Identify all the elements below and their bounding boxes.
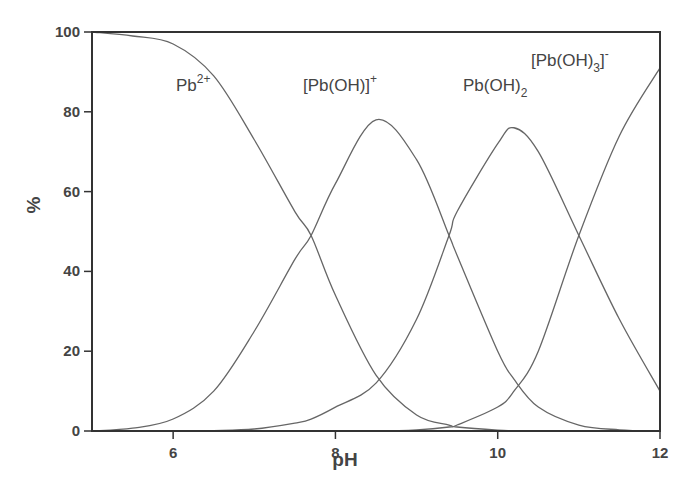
x-tick-label: 10 (489, 444, 506, 461)
y-axis: 020406080100 (55, 23, 92, 439)
curve-1 (92, 119, 660, 431)
label-pboh-plus: [Pb(OH)]+ (303, 72, 377, 95)
y-axis-title: % (23, 196, 44, 213)
curve-2 (92, 127, 660, 431)
x-tick-label: 12 (652, 444, 669, 461)
y-tick-label: 80 (63, 103, 80, 120)
label-pboh2: Pb(OH)2 (463, 76, 528, 100)
x-axis-title: pH (332, 449, 357, 470)
curve-3 (92, 68, 660, 431)
y-tick-label: 100 (55, 23, 80, 40)
y-tick-label: 0 (72, 422, 80, 439)
y-tick-label: 20 (63, 342, 80, 359)
speciation-chart: 020406080100 681012 % pH Pb2+ [Pb(OH)]+ … (0, 0, 686, 483)
x-tick-label: 6 (169, 444, 177, 461)
label-pb2plus: Pb2+ (176, 72, 210, 95)
x-axis: 681012 (169, 431, 668, 461)
label-pboh3-minus: [Pb(OH)3]- (531, 47, 609, 75)
y-tick-label: 60 (63, 183, 80, 200)
y-tick-label: 40 (63, 262, 80, 279)
